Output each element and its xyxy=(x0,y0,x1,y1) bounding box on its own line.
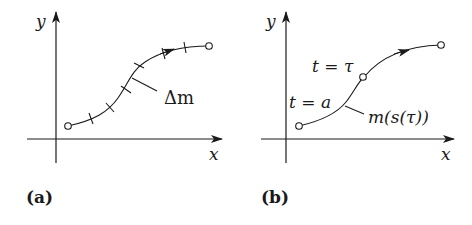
tau-point xyxy=(360,74,367,81)
diagram-canvas: y x Δm (a) y x t = τ t = a m(s(τ)) xyxy=(0,0,472,225)
m-s-tau-label: m(s(τ)) xyxy=(368,107,429,127)
direction-arrow-icon xyxy=(394,50,409,54)
start-point xyxy=(65,123,72,130)
start-point xyxy=(296,123,303,130)
y-axis-label: y xyxy=(265,11,276,31)
caption-a: (a) xyxy=(26,187,53,207)
end-point xyxy=(206,43,213,50)
x-axis-label: x xyxy=(209,144,219,164)
t-tau-label: t = τ xyxy=(312,56,354,76)
t-a-label: t = a xyxy=(289,92,331,112)
panel-a: y x Δm (a) xyxy=(26,11,222,207)
end-point xyxy=(438,42,445,49)
y-axis-label: y xyxy=(35,11,46,31)
delta-m-label: Δm xyxy=(164,87,194,108)
panel-b: y x t = τ t = a m(s(τ)) (b) xyxy=(261,11,454,207)
delta-m-leader xyxy=(132,78,157,91)
x-axis-label: x xyxy=(441,144,451,164)
m-s-tau-leader xyxy=(345,106,364,114)
caption-b: (b) xyxy=(261,187,289,207)
